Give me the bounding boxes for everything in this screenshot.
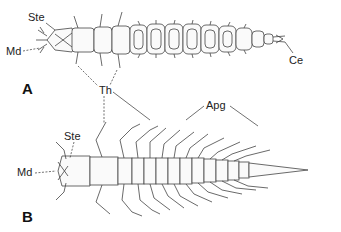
label-a-ce: Ce xyxy=(289,54,303,66)
panel-a-larva xyxy=(36,12,285,68)
label-a-ste: Ste xyxy=(28,11,45,23)
panel-label-a: A xyxy=(22,80,33,97)
larva-diagram: Ste Md Ce A Th Apg xyxy=(0,0,341,232)
panel-label-b: B xyxy=(22,208,33,225)
label-th: Th xyxy=(99,84,112,96)
panel-b-larva xyxy=(56,122,308,216)
label-b-ste: Ste xyxy=(64,130,81,142)
label-a-md: Md xyxy=(6,45,21,57)
label-apg: Apg xyxy=(206,99,226,111)
label-b-md: Md xyxy=(17,166,32,178)
